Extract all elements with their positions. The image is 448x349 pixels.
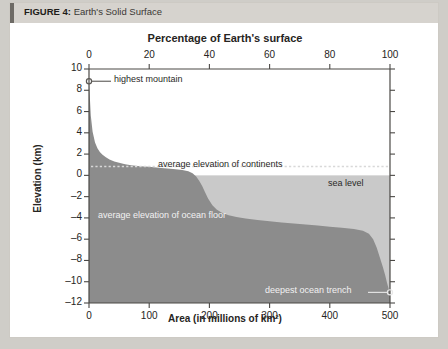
y-tick-label-10: 10	[41, 62, 82, 73]
y-tick-label--6: –6	[41, 232, 82, 243]
x-tick-label-200: 200	[189, 310, 229, 321]
y-tick-label-0: 0	[41, 168, 82, 179]
x-tick-label-500: 500	[370, 310, 410, 321]
y-tick-label-4: 4	[41, 126, 82, 137]
top-tick-label-60: 60	[250, 49, 290, 60]
y-tick-label--2: –2	[41, 190, 82, 201]
annotation-deepest-ocean-trench: deepest ocean trench	[265, 285, 352, 295]
chart-plot-area: Percentage of Earth's surface Elevation …	[10, 23, 440, 339]
y-tick-label-8: 8	[41, 83, 82, 94]
annotation-highest-mountain: highest mountain	[114, 74, 183, 84]
y-tick-label--12: –12	[41, 296, 82, 307]
figure-title: Earth's Solid Surface	[74, 6, 162, 17]
x-tick-label-100: 100	[129, 310, 169, 321]
y-tick-label--4: –4	[41, 211, 82, 222]
y-tick-label-2: 2	[41, 147, 82, 158]
y-tick-label-6: 6	[41, 105, 82, 116]
top-tick-label-100: 100	[370, 49, 410, 60]
annotation-sea-level: sea level	[328, 178, 364, 188]
figure-card: FIGURE 4: Earth's Solid Surface Percenta…	[9, 2, 439, 338]
annotation-average-elevation-ocean-floor: average elevation of ocean floor	[98, 210, 226, 220]
x-tick-label-300: 300	[250, 310, 290, 321]
top-tick-label-20: 20	[129, 49, 169, 60]
top-tick-label-40: 40	[189, 49, 229, 60]
x-tick-label-0: 0	[69, 310, 109, 321]
top-tick-label-0: 0	[69, 49, 109, 60]
figure-caption: FIGURE 4: Earth's Solid Surface	[24, 6, 162, 17]
figure-header-bar: FIGURE 4: Earth's Solid Surface	[10, 3, 438, 23]
x-tick-label-400: 400	[310, 310, 350, 321]
annotation-average-elevation-continents: average elevation of continents	[158, 159, 283, 169]
y-tick-label--8: –8	[41, 253, 82, 264]
figure-label: FIGURE 4:	[24, 6, 71, 17]
header-accent-bar	[10, 3, 14, 23]
y-tick-label--10: –10	[41, 275, 82, 286]
top-tick-label-80: 80	[310, 49, 350, 60]
